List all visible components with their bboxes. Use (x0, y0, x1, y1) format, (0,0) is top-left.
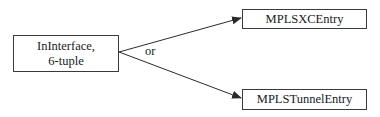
source-node-line1: InInterface, (37, 39, 95, 54)
edge-to-mplstunnelentry (119, 52, 241, 98)
source-node-ininterface: InInterface, 6-tuple (13, 35, 119, 72)
edge-label-or: or (145, 44, 155, 59)
target-node-label: MPLSXCEntry (266, 12, 344, 27)
source-node-line2: 6-tuple (48, 54, 83, 69)
target-node-mplsxcentry: MPLSXCEntry (242, 9, 367, 29)
target-node-mplstunnelentry: MPLSTunnelEntry (242, 89, 367, 110)
edge-to-mplsxcentry (119, 18, 241, 52)
target-node-label: MPLSTunnelEntry (257, 92, 352, 107)
